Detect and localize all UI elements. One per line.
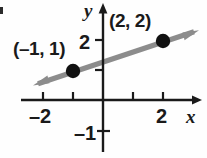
line-arrow-left-icon <box>33 76 50 86</box>
y-axis <box>95 3 110 152</box>
y-axis-label: y <box>84 1 92 20</box>
y-tick-label-minus-1: –1 <box>74 123 96 143</box>
point-label-2-2: (2, 2) <box>109 11 151 30</box>
line-arrow-right-icon <box>183 30 200 40</box>
x-axis-arrow-icon <box>192 96 202 105</box>
y-axis-arrow-icon <box>99 3 108 14</box>
coordinate-plane-svg <box>0 0 207 158</box>
x-axis-label: x <box>186 107 196 126</box>
x-tick-label-2: 2 <box>156 106 167 126</box>
x-tick-label-minus-2: –2 <box>29 106 51 126</box>
data-point-minus1-1 <box>66 64 80 78</box>
data-point-2-2 <box>156 34 170 48</box>
y-tick-label-2: 2 <box>79 32 90 52</box>
x-axis <box>21 92 202 104</box>
graph-figure: y x 2 –1 –2 2 (–1, 1) (2, 2) <box>0 0 207 158</box>
point-label-minus1-1: (–1, 1) <box>13 39 65 58</box>
